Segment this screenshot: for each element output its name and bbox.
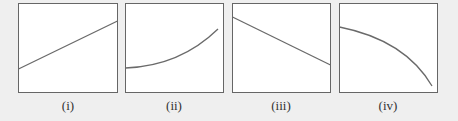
panel-ii-frame — [126, 4, 224, 93]
panel-iii-frame — [233, 4, 331, 93]
panel-iii — [233, 4, 331, 93]
panel-iv — [340, 4, 438, 93]
panel-iv-frame — [340, 4, 438, 93]
panel-i — [19, 4, 118, 93]
panel-iv-label: (iv) — [338, 98, 438, 114]
panel-ii-label: (ii) — [124, 98, 224, 114]
panel-i-frame — [19, 4, 118, 93]
panel-iii-label: (iii) — [231, 98, 331, 114]
panel-ii — [126, 4, 224, 93]
panel-i-label: (i) — [18, 98, 118, 114]
